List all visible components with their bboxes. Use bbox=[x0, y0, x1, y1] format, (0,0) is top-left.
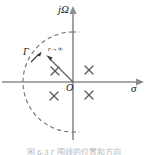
radius-infinity-glyph: ∞ bbox=[58, 45, 63, 53]
pole-upper-left bbox=[51, 67, 59, 75]
radius-arrow-glyph: → bbox=[51, 45, 58, 53]
figure-caption: 图 6-3 Γ 围线的位置和方向 bbox=[0, 146, 148, 155]
contour-gamma-label: Γ bbox=[23, 47, 29, 57]
imaginary-axis-group bbox=[69, 6, 76, 140]
pole-lower-right bbox=[85, 91, 93, 99]
radius-arrow-line bbox=[50, 59, 73, 82]
radius-limit-label: r→∞ bbox=[48, 46, 63, 53]
pole-lower-left bbox=[50, 92, 58, 100]
complex-plane-diagram bbox=[0, 0, 148, 155]
imaginary-axis-arrowhead bbox=[69, 6, 76, 14]
pole-upper-right bbox=[85, 66, 93, 74]
real-axis-label: σ bbox=[131, 83, 136, 94]
pole-zero-contour-figure: jΩ σ O Γ r→∞ 图 6-3 Γ 围线的位置和方向 bbox=[0, 0, 148, 155]
radius-arrow-group bbox=[46, 55, 73, 82]
origin-label: O bbox=[66, 83, 73, 93]
real-axis-arrowhead bbox=[136, 78, 144, 85]
imaginary-axis-label: jΩ bbox=[58, 4, 69, 15]
